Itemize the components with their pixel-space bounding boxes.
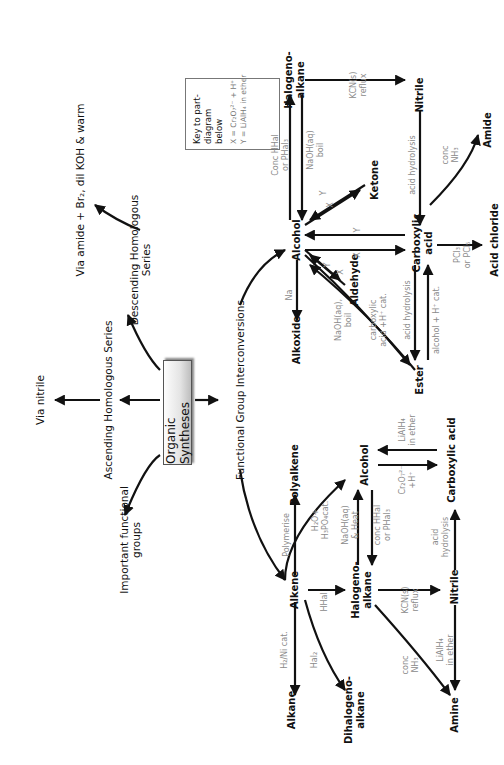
descending-line2: Series	[140, 195, 152, 326]
oxidation-left-line1: Cr₂O₇²⁻	[398, 465, 408, 494]
cond-polymerise: Polymerise	[282, 513, 292, 557]
lialh4-acid-line2: in ether	[407, 414, 417, 445]
pcl-line2: or PCl₅	[462, 242, 472, 269]
functional-group-interconversions-label: Functional Group Interconversions	[234, 300, 246, 480]
organic-syntheses-title: Organic Syntheses	[163, 360, 192, 465]
node-alkoxide: Alkoxide	[291, 316, 303, 364]
cond-hydration: H₂O+ H₃PO₄cat.	[311, 501, 330, 540]
cond-conc-nh3-right: conc NH₃	[441, 146, 460, 165]
node-amine: Amine	[449, 697, 461, 733]
cond-naoh-boil-ester: NaOH(aq), boil	[334, 299, 353, 341]
cond-acid-hydrolysis-nitrile: acid hydrolysis	[408, 135, 418, 195]
conc-hhal-right-line1: Conc HHal	[271, 134, 281, 176]
naoh-boil-ester-line2: boil	[343, 299, 353, 341]
key-x-definition: X = Cr₂O₇²⁻ + H⁺	[229, 84, 239, 144]
halogenoalkane-left-line2: alkane	[362, 561, 374, 619]
dihalogenoalkane-line1: Dihalogeno-	[343, 676, 355, 744]
cond-pcl: PCl₃ or PCl₅	[453, 242, 472, 269]
cond-hhal: HHal	[320, 592, 330, 611]
cond-kcn-right: KCN(s) reflux	[349, 72, 368, 99]
oxidation-left-line2: +H⁺	[407, 465, 417, 494]
key-heading-2: diagram below	[203, 84, 225, 144]
node-alkane: Alkane	[286, 691, 298, 729]
kcn-left-line1: KCN(s)	[401, 587, 411, 614]
halogenoalkane-right-line1: Halogeno-	[283, 51, 295, 109]
node-ketone: Ketone	[369, 160, 381, 200]
node-polyalkene: Polyalkene	[289, 444, 301, 505]
node-halogenoalkane-right: Halogeno- alkane	[283, 51, 307, 109]
carboxylic-cat-line1: carboxylic	[369, 293, 379, 347]
cond-lialh4-acid: LiAlH₄ in ether	[398, 414, 417, 445]
carboxylic-acid-right-line2: acid	[423, 214, 435, 273]
cond-conc-nh3-left: conc NH₃	[401, 656, 420, 675]
carboxylic-acid-right-line1: Carboxylic	[411, 214, 423, 273]
naoh-boil-line2: boil	[315, 130, 325, 169]
halogenoalkane-left-line1: Halogeno-	[350, 561, 362, 619]
via-nitrile-label: Via nitrile	[34, 375, 46, 425]
label-y-aldehyde: Y	[323, 263, 332, 268]
conc-hhal-right-line2: or PHal₃	[280, 134, 290, 176]
conc-hhal-left-line2: or PHal₃	[382, 505, 392, 545]
diagram-stage: Organic Syntheses Via nitrile Ascending …	[0, 0, 504, 765]
conc-nh3-right-line1: conc	[441, 146, 451, 165]
cond-lialh4-amine: LiAlH₄ in ether	[436, 634, 455, 665]
carboxylic-cat-line2: acid +H⁺ cat.	[378, 293, 388, 347]
important-groups-label: Important functional groups	[118, 486, 142, 594]
pcl-line1: PCl₃	[453, 242, 463, 269]
node-carboxylic-acid-right: Carboxylic acid	[411, 214, 435, 273]
cond-naoh-boil: NaOH(aq) boil	[306, 130, 325, 169]
important-groups-line1: Important functional	[118, 486, 130, 594]
cond-naoh-heat: NaOH(aq) & Heat	[341, 505, 360, 544]
node-amide: Amide	[482, 112, 494, 148]
conc-hhal-left-line1: conc HHal	[373, 505, 383, 545]
node-nitrile-right: Nitrile	[414, 77, 426, 112]
ascending-homologous-label: Ascending Homologous Series	[102, 321, 114, 480]
label-x-aldehyde: X	[336, 269, 345, 274]
conc-nh3-left-line1: conc	[401, 656, 411, 675]
cond-h2-ni: H₂/Ni cat.	[280, 631, 290, 669]
cond-kcn-left: KCN(s) reflux	[401, 587, 420, 614]
dihalogenoalkane-line2: alkane	[355, 676, 367, 744]
cond-acid-hydrolysis-ester: acid hydrolysis	[403, 280, 413, 340]
label-x-ketone: X	[326, 202, 335, 207]
kcn-right-line2: reflux	[358, 72, 368, 99]
descending-homologous-label: Descending Homologous Series	[128, 195, 152, 326]
lialh4-amine-line2: in ether	[445, 634, 455, 665]
cond-carboxylic-acid-cat: carboxylic acid +H⁺ cat.	[369, 293, 388, 347]
descending-line1: Descending Homologous	[128, 195, 140, 326]
naoh-boil-ester-line1: NaOH(aq),	[334, 299, 344, 341]
conc-nh3-left-line2: NH₃	[410, 656, 420, 675]
node-halogenoalkane-left: Halogeno- alkane	[350, 561, 374, 619]
naoh-heat-line1: NaOH(aq)	[341, 505, 351, 544]
lialh4-acid-line1: LiAlH₄	[398, 414, 408, 445]
node-nitrile-left: Nitrile	[449, 569, 461, 604]
naoh-heat-line2: & Heat	[350, 505, 360, 544]
hydration-line2: H₃PO₄cat.	[320, 501, 330, 540]
key-heading-1: Key to part-	[192, 84, 203, 144]
label-y-acid: Y	[353, 228, 362, 233]
cond-oxidation-left: Cr₂O₇²⁻ +H⁺	[398, 465, 417, 494]
important-groups-line2: groups	[130, 486, 142, 594]
cond-acid-hydrolysis-left: acid hydrolysis	[431, 517, 450, 557]
kcn-right-line1: KCN(s)	[349, 72, 359, 99]
node-alkene: Alkene	[289, 571, 301, 609]
halogenoalkane-right-line2: alkane	[295, 51, 307, 109]
via-amide-label: Via amide + Br₂, dil KOH & warm	[74, 104, 86, 277]
node-alcohol-left: Alcohol	[359, 444, 371, 485]
cond-alcohol-cat: alcohol + H⁺ cat.	[432, 286, 442, 354]
cond-conc-hhal-right: Conc HHal or PHal₃	[271, 134, 290, 176]
acid-hydrolysis-left-line1: acid	[431, 517, 441, 557]
cond-conc-hhal-left: conc HHal or PHal₃	[373, 505, 392, 545]
conc-nh3-right-line2: NH₃	[450, 146, 460, 165]
cond-na: Na	[285, 290, 295, 301]
node-carboxylic-acid-left: Carboxylic acid	[446, 417, 458, 503]
label-x-acid: X	[353, 252, 362, 257]
key-box: Key to part- diagram below X = Cr₂O₇²⁻ +…	[185, 78, 280, 150]
naoh-boil-line1: NaOH(aq)	[306, 130, 316, 169]
key-y-definition: Y = LiAlH₄ in ether	[239, 84, 249, 144]
node-ester: Ester	[414, 365, 426, 394]
cond-hal2: Hal₂	[310, 652, 320, 668]
node-dihalogenoalkane: Dihalogeno- alkane	[343, 676, 367, 744]
kcn-left-line2: reflux	[410, 587, 420, 614]
label-y-ketone: Y	[319, 191, 328, 196]
